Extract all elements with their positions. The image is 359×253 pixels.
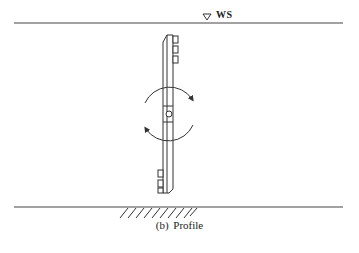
rotation-arrow-lower-icon (146, 125, 193, 141)
pivot-pin-icon (166, 111, 172, 117)
water-surface-triangle-icon (203, 14, 211, 20)
rotation-arrow-upper-icon (145, 87, 192, 103)
upper-tabs (173, 36, 178, 63)
bed-hatching (120, 208, 197, 218)
profile-diagram (0, 0, 359, 253)
water-surface-label: WS (216, 9, 233, 20)
lower-tabs (158, 170, 163, 193)
figure-caption: (b) Profile (0, 219, 359, 231)
